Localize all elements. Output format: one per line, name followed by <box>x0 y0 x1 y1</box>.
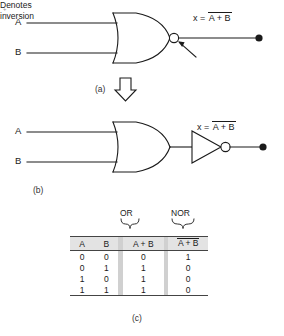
cell-nor: 0 <box>168 284 208 296</box>
page-speck: + <box>3 6 7 12</box>
cell-or: 1 <box>123 273 163 284</box>
cell-a: 0 <box>70 262 94 273</box>
transform-down-arrow <box>115 78 136 101</box>
cell-a: 0 <box>70 251 94 263</box>
table-row: 1 0 1 0 <box>70 273 208 284</box>
panel-a-gate-bottom <box>113 38 170 63</box>
truth-table-header-nor: A + B <box>168 237 208 251</box>
table-row: 1 1 1 0 <box>70 284 208 296</box>
panel-b-or-top <box>113 122 170 147</box>
panel-b-equation-overbar-expr: A + B <box>212 121 236 132</box>
panel-c-caption: (c) <box>132 314 142 323</box>
panel-a-input-a-label: A <box>15 17 21 27</box>
truth-table-header-row: A B A + B A + B <box>70 237 208 251</box>
cell-or: 1 <box>123 284 163 296</box>
truth-table-header-a: A <box>70 237 94 251</box>
cell-b: 1 <box>94 262 118 273</box>
panel-b-inversion-bubble <box>221 142 230 151</box>
cell-a: 1 <box>70 273 94 284</box>
panel-a-gate-back <box>113 13 118 63</box>
logic-gate-figure: + A B x = A + B Denotes inversion (a) A … <box>0 0 284 336</box>
cell-or: 1 <box>123 262 163 273</box>
cell-b: 0 <box>94 251 118 263</box>
cell-nor: 1 <box>168 251 208 263</box>
cell-nor: 0 <box>168 262 208 273</box>
panel-b-not-gate-triangle <box>192 131 221 163</box>
panel-a-equation: x = A + B <box>193 12 232 23</box>
truth-table-group-or-label: OR <box>120 208 133 218</box>
truth-table-or-brace <box>121 219 139 229</box>
cell-a: 1 <box>70 284 94 296</box>
panel-a-inversion-bubble <box>169 33 178 42</box>
panel-a-gate-top <box>113 13 170 38</box>
panel-b-input-a-label: A <box>15 126 21 136</box>
truth-table-header-or: A + B <box>123 237 163 251</box>
panel-b-input-b-label: B <box>15 156 21 166</box>
panel-a-caption: (a) <box>95 85 105 94</box>
panel-b-caption: (b) <box>33 186 43 195</box>
panel-b-equation: x = A + B <box>197 121 236 132</box>
truth-table-nor-brace <box>172 219 194 229</box>
table-row: 0 1 1 0 <box>70 262 208 273</box>
panel-a-output-terminal <box>255 34 262 41</box>
cell-nor: 0 <box>168 273 208 284</box>
panel-a-equation-lhs: x = <box>193 13 205 23</box>
truth-table-group-nor-label: NOR <box>171 208 190 218</box>
truth-table: A B A + B A + B 0 0 0 1 <box>70 236 208 296</box>
panel-b-or-bottom <box>113 147 170 172</box>
panel-b-equation-lhs: x = <box>197 122 209 132</box>
panel-a-equation-overbar-expr: A + B <box>208 12 232 23</box>
cell-b: 0 <box>94 273 118 284</box>
panel-a-input-b-label: B <box>15 47 21 57</box>
panel-b-or-back <box>113 122 118 172</box>
table-row: 0 0 0 1 <box>70 251 208 263</box>
truth-table-header-b: B <box>94 237 118 251</box>
cell-or: 0 <box>123 251 163 263</box>
truth-table-header-nor-expr: A + B <box>177 238 200 248</box>
cell-b: 1 <box>94 284 118 296</box>
panel-b-output-terminal <box>259 143 266 150</box>
